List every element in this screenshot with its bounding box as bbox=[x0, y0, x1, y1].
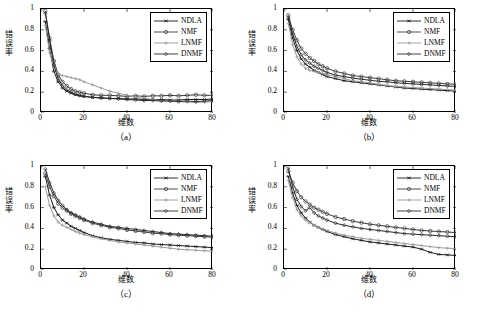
y-axis-label: 错误率 bbox=[2, 30, 16, 57]
legend-label: NMF bbox=[179, 184, 197, 193]
y-axis-tick: 0.8 bbox=[261, 181, 277, 190]
legend-marker-icon bbox=[153, 27, 179, 37]
legend-item: NMF bbox=[396, 183, 446, 194]
y-axis-tick: 0.6 bbox=[261, 45, 277, 54]
y-axis-tick: 1 bbox=[261, 160, 277, 169]
legend-label: LNMF bbox=[422, 195, 445, 204]
legend-label: NDLA bbox=[179, 16, 202, 25]
legend-label: DNMF bbox=[179, 49, 203, 58]
y-axis-tick: 0.6 bbox=[18, 45, 34, 54]
y-axis-tick: 0.2 bbox=[18, 86, 34, 95]
legend: NDLANMFLNMFDNMF bbox=[150, 169, 207, 219]
y-axis-tick: 0.6 bbox=[18, 202, 34, 211]
legend-label: NDLA bbox=[422, 173, 445, 182]
legend-label: LNMF bbox=[179, 195, 202, 204]
legend-label: DNMF bbox=[422, 206, 446, 215]
legend-label: NDLA bbox=[422, 16, 445, 25]
x-axis-label: 维数 bbox=[40, 116, 212, 127]
x-axis-label: 维数 bbox=[40, 273, 212, 284]
legend-item: NDLA bbox=[396, 172, 446, 183]
legend-item: NDLA bbox=[396, 15, 446, 26]
x-axis-label: 维数 bbox=[283, 116, 455, 127]
legend-marker-icon bbox=[153, 195, 179, 205]
y-axis-tick: 0.4 bbox=[261, 222, 277, 231]
legend-label: LNMF bbox=[422, 38, 445, 47]
legend-label: DNMF bbox=[422, 49, 446, 58]
y-axis-tick: 0.2 bbox=[261, 243, 277, 252]
chart-panel-c: 错误率00.20.40.60.81020406080NDLANMFLNMFDNM… bbox=[0, 157, 232, 309]
legend-marker-icon bbox=[153, 173, 179, 183]
panel-caption: （a） bbox=[40, 130, 212, 143]
y-axis-tick: 1 bbox=[18, 160, 34, 169]
legend-item: LNMF bbox=[396, 194, 446, 205]
legend-marker-icon bbox=[153, 38, 179, 48]
legend-marker-icon bbox=[396, 27, 422, 37]
y-axis-tick: 0.4 bbox=[261, 65, 277, 74]
panel-caption: （b） bbox=[283, 130, 455, 143]
y-axis-label: 错误率 bbox=[2, 187, 16, 214]
legend-label: NDLA bbox=[179, 173, 202, 182]
legend-marker-icon bbox=[396, 38, 422, 48]
legend-marker-icon bbox=[396, 16, 422, 26]
figure-container: 错误率00.20.40.60.81020406080NDLANMFLNMFDNM… bbox=[0, 0, 483, 317]
legend-item: NMF bbox=[153, 183, 203, 194]
y-axis-tick: 0.4 bbox=[18, 65, 34, 74]
legend-label: NMF bbox=[179, 27, 197, 36]
legend: NDLANMFLNMFDNMF bbox=[393, 169, 450, 219]
legend-item: DNMF bbox=[396, 48, 446, 59]
legend-item: DNMF bbox=[153, 48, 203, 59]
legend-marker-icon bbox=[396, 206, 422, 216]
y-axis-tick: 0.8 bbox=[18, 24, 34, 33]
legend-marker-icon bbox=[153, 16, 179, 26]
legend-item: NDLA bbox=[153, 172, 203, 183]
y-axis-tick: 0.4 bbox=[18, 222, 34, 231]
legend-label: LNMF bbox=[179, 38, 202, 47]
legend-label: NMF bbox=[422, 184, 440, 193]
legend-label: DNMF bbox=[179, 206, 203, 215]
chart-panel-b: 错误率00.20.40.60.81020406080NDLANMFLNMFDNM… bbox=[243, 0, 475, 152]
y-axis-label: 错误率 bbox=[245, 187, 259, 214]
legend-marker-icon bbox=[396, 173, 422, 183]
legend-marker-icon bbox=[396, 184, 422, 194]
legend-item: NMF bbox=[153, 26, 203, 37]
legend: NDLANMFLNMFDNMF bbox=[150, 12, 207, 62]
chart-panel-a: 错误率00.20.40.60.81020406080NDLANMFLNMFDNM… bbox=[0, 0, 232, 152]
panel-caption: （c） bbox=[40, 287, 212, 300]
y-axis-tick: 1 bbox=[18, 3, 34, 12]
legend: NDLANMFLNMFDNMF bbox=[393, 12, 450, 62]
legend-label: NMF bbox=[422, 27, 440, 36]
y-axis-tick: 0.2 bbox=[261, 86, 277, 95]
legend-item: DNMF bbox=[153, 205, 203, 216]
y-axis-tick: 0.8 bbox=[261, 24, 277, 33]
legend-item: LNMF bbox=[396, 37, 446, 48]
x-axis-label: 维数 bbox=[283, 273, 455, 284]
legend-marker-icon bbox=[153, 184, 179, 194]
legend-item: LNMF bbox=[153, 194, 203, 205]
y-axis-label: 错误率 bbox=[245, 30, 259, 57]
y-axis-tick: 0.6 bbox=[261, 202, 277, 211]
y-axis-tick: 1 bbox=[261, 3, 277, 12]
y-axis-tick: 0.8 bbox=[18, 181, 34, 190]
legend-item: DNMF bbox=[396, 205, 446, 216]
legend-marker-icon bbox=[153, 206, 179, 216]
legend-marker-icon bbox=[396, 49, 422, 59]
legend-marker-icon bbox=[396, 195, 422, 205]
chart-panel-d: 错误率00.20.40.60.81020406080NDLANMFLNMFDNM… bbox=[243, 157, 475, 309]
legend-item: NMF bbox=[396, 26, 446, 37]
legend-item: NDLA bbox=[153, 15, 203, 26]
y-axis-tick: 0.2 bbox=[18, 243, 34, 252]
panel-caption: （d） bbox=[283, 287, 455, 300]
legend-item: LNMF bbox=[153, 37, 203, 48]
legend-marker-icon bbox=[153, 49, 179, 59]
